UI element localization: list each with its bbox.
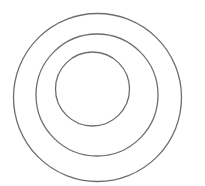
concentric-circles-diagram: [0, 0, 205, 186]
inner-circle: [56, 52, 130, 126]
